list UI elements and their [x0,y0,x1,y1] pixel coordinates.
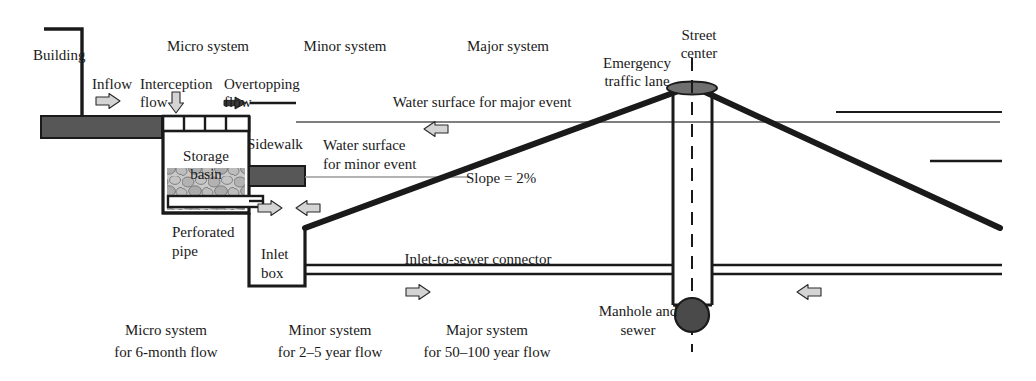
label-overtopping-flow-line1: Overtopping [224,76,300,94]
header-major-system: Major system [467,38,549,56]
footer-micro-line1: Micro system [125,322,207,340]
label-sidewalk: Sidewalk [247,136,303,154]
label-water-surface-minor-line2: for minor event [323,156,416,174]
label-emergency-lane-line2: traffic lane [604,73,669,91]
label-interception-flow-line2: flow [140,94,168,112]
label-slope: Slope = 2% [466,170,536,188]
footer-major-line2: for 50–100 year flow [423,344,550,362]
label-interception-flow-line1: Interception [140,76,212,94]
label-inlet-box-line1: Inlet [261,246,289,264]
trunk-sewer-flow-arrow [797,285,821,300]
connector-flow-arrow [406,285,430,300]
major-event-flow-arrow [424,122,448,137]
label-street-center-line1: Street [682,27,717,45]
label-emergency-lane-line1: Emergency [603,55,671,73]
label-manhole-line2: sewer [621,322,656,340]
footer-major-line1: Major system [446,322,528,340]
label-water-surface-minor-line1: Water surface [323,137,406,155]
footer-minor-line2: for 2–5 year flow [278,344,383,362]
manhole-sewer-node [675,298,709,332]
label-storage-basin-line1: Storage [183,148,229,166]
label-overtopping-flow-line2: flow [224,94,252,112]
footer-minor-line1: Minor system [289,322,372,340]
label-storage-basin-line2: basin [190,166,222,184]
street-right-slope [692,86,1000,228]
label-water-surface-major: Water surface for major event [393,94,572,112]
ground-slab-left [41,116,162,138]
sidewalk-slab [249,166,305,186]
label-manhole-line1: Manhole and [599,303,678,321]
header-micro-system: Micro system [167,38,249,56]
label-building: Building [33,47,86,65]
basin-grate [163,116,249,131]
diagram-canvas: Micro system Minor system Major system B… [0,0,1036,381]
label-inlet-box-line2: box [261,265,284,283]
label-perforated-pipe-line1: Perforated [172,224,234,242]
label-street-center-line2: center [681,45,718,63]
inflow-arrow [96,94,120,109]
header-minor-system: Minor system [304,38,387,56]
perforated-pipe [168,196,263,207]
building-outline [44,29,82,118]
gutter-inflow-arrow [296,201,320,216]
label-inlet-to-sewer-connector: Inlet-to-sewer connector [404,251,551,269]
label-inflow: Inflow [92,76,132,94]
label-perforated-pipe-line2: pipe [172,243,198,261]
footer-micro-line2: for 6-month flow [114,344,217,362]
interception-flow-arrow [169,92,184,113]
